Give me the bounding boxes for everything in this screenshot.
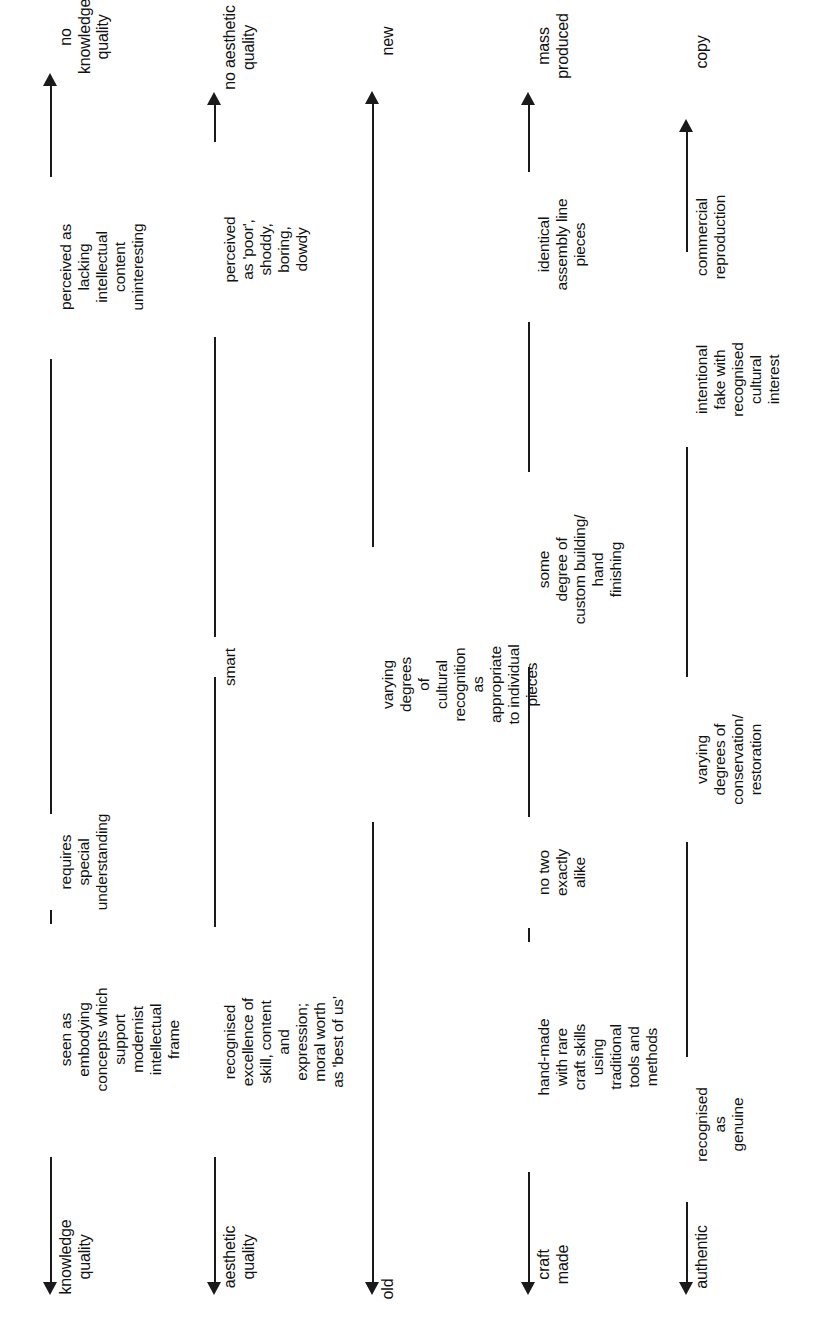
axis-segment xyxy=(372,822,374,1282)
pole-label-right: copy xyxy=(693,2,712,102)
pole-label-left: craft made xyxy=(535,1212,572,1317)
pole-label-right: no knowledge quality xyxy=(57,0,113,74)
stop-label: some degree of custom building/ hand fin… xyxy=(535,472,625,667)
diagram-rotation-wrapper: knowledge quality seen as embodying conc… xyxy=(0,0,827,1317)
axis-tick xyxy=(528,928,530,942)
axis-segment xyxy=(214,100,216,142)
stop-label: varying degrees of conservation/ restora… xyxy=(693,672,765,847)
axis-segment xyxy=(50,1157,52,1282)
spectrum-row-historical-association: historical association links with histor… xyxy=(793,0,827,1317)
right-arrow-head-icon xyxy=(679,119,693,132)
axis-segment xyxy=(372,102,374,547)
stop-label: recognised as genuine xyxy=(693,1052,747,1197)
spectrum-row-knowledge-quality: knowledge quality seen as embodying conc… xyxy=(0,0,103,1317)
spectrum-row-authenticity: authentic recognised as genuine varying … xyxy=(636,0,739,1317)
axis-segment xyxy=(50,82,52,177)
stop-label: perceived as 'poor', shoddy, boring, dow… xyxy=(221,167,311,332)
pole-label-right: no aesthetic quality xyxy=(221,0,258,95)
left-arrow-head-icon xyxy=(365,1282,379,1295)
axis-segment xyxy=(686,132,688,252)
left-arrow-head-icon xyxy=(679,1282,693,1295)
stop-label: perceived as lacking intellectual conten… xyxy=(57,172,147,362)
axis-segment xyxy=(214,677,216,927)
axis-segment xyxy=(214,1157,216,1282)
spectrum-row-craft-made: craft made hand-made with rare craft ski… xyxy=(478,0,581,1317)
axis-segment xyxy=(214,337,216,637)
stop-label: requires special understanding xyxy=(57,812,111,912)
right-arrow-head-icon xyxy=(365,91,379,104)
pole-label-right: new xyxy=(379,5,398,77)
pole-label-left: knowledge quality xyxy=(57,1197,94,1317)
left-arrow-head-icon xyxy=(207,1282,221,1295)
spectrum-row-age: old varying degrees of cultural recognit… xyxy=(322,0,425,1317)
left-arrow-head-icon xyxy=(521,1282,535,1295)
pole-label-left: old xyxy=(379,1261,398,1317)
axis-segment xyxy=(50,359,52,814)
axis-segment xyxy=(686,842,688,1057)
axis-segment xyxy=(528,1172,530,1282)
pole-label-right: mass produced xyxy=(535,0,572,92)
spectrum-row-aesthetic-quality: aesthetic quality recognised excellence … xyxy=(164,0,267,1317)
cultural-value-spectra-diagram: knowledge quality seen as embodying conc… xyxy=(0,0,827,1317)
left-arrow-head-icon xyxy=(43,1282,57,1295)
stop-label: intentional fake with recognised cultura… xyxy=(693,307,783,452)
stop-label: identical assembly line pieces xyxy=(535,167,589,322)
axis-segment xyxy=(528,100,530,172)
axis-segment xyxy=(686,447,688,677)
pole-label-left: authentic xyxy=(693,1197,712,1317)
axis-tick xyxy=(50,910,52,924)
axis-segment xyxy=(686,1202,688,1282)
stop-label: commercial reproduction xyxy=(693,157,729,317)
axis-segment xyxy=(528,322,530,472)
pole-label-left: aesthetic quality xyxy=(221,1197,258,1317)
stop-label: no two exactly alike xyxy=(535,820,589,925)
stop-label: smart xyxy=(221,632,239,702)
axis-segment xyxy=(528,667,530,817)
